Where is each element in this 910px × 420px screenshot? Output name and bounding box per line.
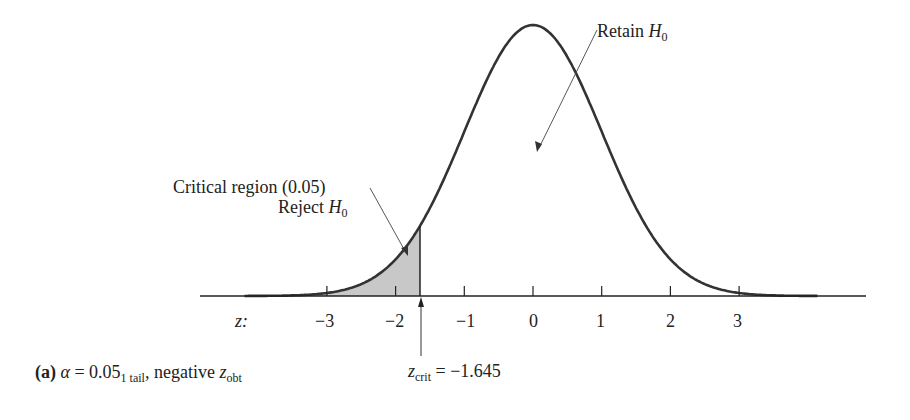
tail-subscript: 1 tail — [121, 371, 145, 385]
tick-label-2: 2 — [666, 312, 675, 330]
tick-label-0: 0 — [529, 312, 538, 330]
alpha-symbol: α — [61, 362, 70, 382]
normal-distribution-chart — [0, 0, 910, 420]
figure-caption: (a) α = 0.051 tail, negative zobt — [35, 363, 242, 381]
h-variable: H — [649, 21, 662, 41]
tick-label-neg2: −2 — [385, 312, 404, 330]
tick-label-3: 3 — [733, 312, 742, 330]
normal-curve — [245, 25, 818, 296]
zcrit-label: zcrit = −1.645 — [408, 362, 501, 380]
retain-arrowhead-icon — [535, 141, 542, 152]
tick-label-neg3: −3 — [315, 312, 334, 330]
alpha-value: = 0.05 — [70, 362, 121, 382]
zcrit-arrowhead-icon — [418, 297, 424, 307]
retain-arrow — [539, 30, 597, 148]
critical-region-label: Critical region (0.05) — [173, 178, 325, 196]
caption-text: , negative — [145, 362, 219, 382]
h-variable: H — [328, 197, 341, 217]
retain-text: Retain — [597, 21, 649, 41]
caption-tag: (a) — [35, 362, 56, 382]
obt-subscript: obt — [226, 371, 241, 385]
critical-region-arrow — [370, 188, 405, 251]
tick-label-neg1: −1 — [456, 312, 475, 330]
tick-label-1: 1 — [596, 312, 605, 330]
z-variable: z — [408, 361, 415, 381]
zcrit-value: = −1.645 — [431, 361, 501, 381]
crit-subscript: crit — [415, 370, 431, 384]
reject-text: Reject — [278, 197, 328, 217]
h-subscript: 0 — [341, 206, 347, 220]
retain-h0-label: Retain H0 — [597, 22, 668, 40]
z-axis-label: z: — [235, 312, 248, 330]
h-subscript: 0 — [662, 30, 668, 44]
reject-h0-label: Reject H0 — [278, 198, 347, 216]
